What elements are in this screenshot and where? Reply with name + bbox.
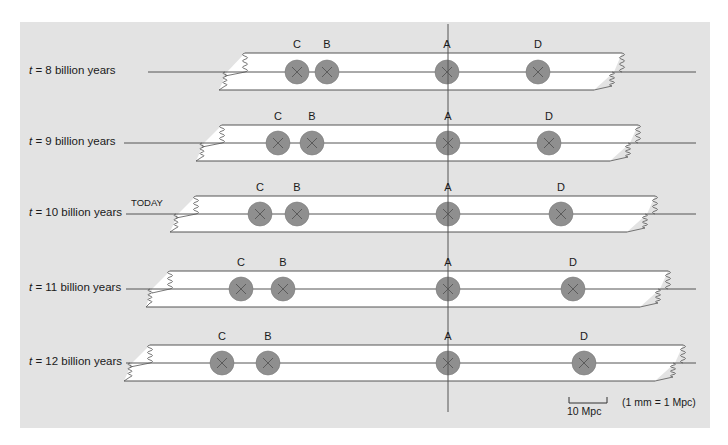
galaxy-label-A: A <box>444 256 451 268</box>
scale-bar-label: 10 Mpc <box>567 405 601 417</box>
galaxy-label-D: D <box>580 330 588 342</box>
time-row-2 <box>124 196 696 232</box>
galaxy-label-B: B <box>264 330 271 342</box>
galaxy-label-C: C <box>237 256 245 268</box>
scale-note: (1 mm = 1 Mpc) <box>622 396 696 408</box>
galaxy-label-D: D <box>557 181 565 193</box>
galaxy-label-B: B <box>279 256 286 268</box>
galaxy-label-D: D <box>545 110 553 122</box>
time-label: t = 12 billion years <box>29 355 122 367</box>
galaxy-D <box>572 351 596 375</box>
time-label: t = 9 billion years <box>29 135 116 147</box>
galaxy-C <box>285 60 309 84</box>
time-row-0 <box>148 53 696 90</box>
galaxy-D <box>561 277 585 301</box>
galaxy-label-B: B <box>293 181 300 193</box>
galaxy-D <box>526 60 550 84</box>
galaxy-label-D: D <box>569 256 577 268</box>
galaxy-label-C: C <box>274 110 282 122</box>
galaxy-label-D: D <box>534 38 542 50</box>
time-row-1 <box>124 125 696 161</box>
galaxy-label-B: B <box>323 38 330 50</box>
galaxy-A <box>435 60 459 84</box>
galaxy-label-C: C <box>256 181 264 193</box>
galaxy-C <box>210 351 234 375</box>
galaxy-D <box>537 131 561 155</box>
galaxy-label-B: B <box>308 110 315 122</box>
galaxy-B <box>300 131 324 155</box>
galaxy-label-C: C <box>293 38 301 50</box>
galaxy-B <box>271 277 295 301</box>
galaxy-label-A: A <box>444 330 451 342</box>
galaxy-label-C: C <box>218 330 226 342</box>
galaxy-C <box>229 277 253 301</box>
today-marker: TODAY <box>131 197 163 208</box>
galaxy-C <box>248 202 272 226</box>
galaxy-label-A: A <box>444 181 451 193</box>
galaxy-D <box>549 202 573 226</box>
galaxy-B <box>315 60 339 84</box>
time-label: t = 8 billion years <box>29 64 116 76</box>
time-row-3 <box>124 271 696 307</box>
galaxy-label-A: A <box>444 110 451 122</box>
scale-bar <box>569 397 607 403</box>
galaxy-B <box>285 202 309 226</box>
galaxy-C <box>266 131 290 155</box>
galaxy-label-A: A <box>443 38 450 50</box>
time-row-4 <box>124 345 696 381</box>
time-label: t = 11 billion years <box>29 281 121 293</box>
galaxy-B <box>256 351 280 375</box>
time-label: t = 10 billion years <box>29 206 122 218</box>
